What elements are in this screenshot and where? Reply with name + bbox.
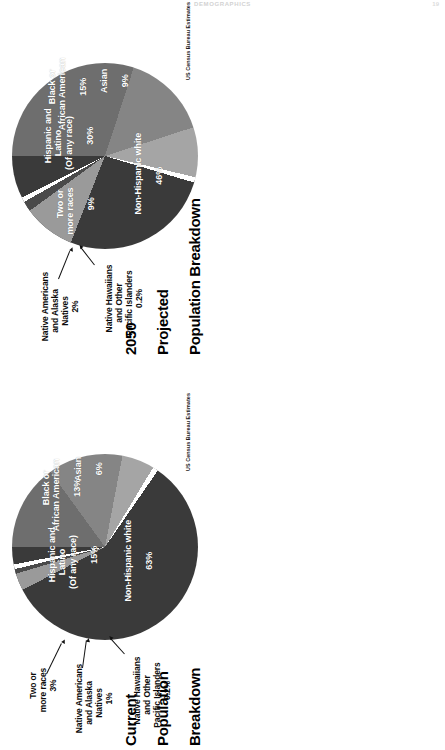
pie-chart-current: Non-Hispanic white 63% Hispanic and Lati… [0, 446, 210, 656]
chart-projected-2050: Non-Hispanic white 46% Hispanic and Lati… [2, 2, 207, 357]
chart-title-projected-2050: 2050 Projected Population Breakdown [107, 198, 203, 355]
chart-title-current: Current Population Breakdown [107, 668, 203, 746]
slice-label-two-or-more-races: Two or more races 9% [44, 183, 107, 239]
slice-label-asian: Asian 9% [88, 63, 141, 113]
slice-label-non-hispanic-white: Non-Hispanic white 63% [112, 520, 165, 616]
callout-native-americans: Native Americans and Alaska Natives 2% [30, 269, 90, 353]
slice-label-asian: Asian 6% [62, 452, 115, 500]
callout-two-or-more-races: Two or more races 3% [18, 660, 68, 720]
source-note-projected-2050: US Census Bureau Estimates [185, 2, 191, 80]
leader-arrow-native-americans [86, 638, 91, 643]
page-number: 19 [432, 1, 439, 7]
chart-current: Non-Hispanic white 63% Hispanic and Lati… [2, 393, 207, 748]
source-note-current: US Census Bureau Estimates [185, 393, 191, 471]
